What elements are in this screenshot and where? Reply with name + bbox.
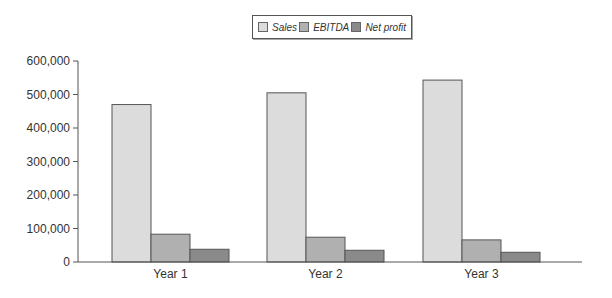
y-axis: 0100,000200,000300,000400,000500,000600,… [27, 54, 78, 269]
bar-net-profit [190, 249, 229, 262]
bar-net-profit [345, 250, 384, 262]
bar-chart: 0100,000200,000300,000400,000500,000600,… [0, 0, 612, 298]
bars [112, 80, 540, 262]
bar-sales [112, 105, 151, 262]
y-tick-label: 100,000 [27, 222, 71, 236]
bar-ebitda [151, 234, 190, 262]
x-category-label: Year 1 [153, 267, 188, 281]
y-tick-label: 200,000 [27, 188, 71, 202]
bar-sales [423, 80, 462, 262]
bar-net-profit [501, 252, 540, 262]
bar-group [112, 105, 229, 262]
y-tick-label: 500,000 [27, 88, 71, 102]
bar-ebitda [306, 237, 345, 262]
y-tick-label: 400,000 [27, 121, 71, 135]
bar-group [267, 93, 384, 262]
x-category-label: Year 2 [308, 267, 343, 281]
x-category-label: Year 3 [464, 267, 499, 281]
bar-group [423, 80, 540, 262]
y-tick-label: 300,000 [27, 155, 71, 169]
y-tick-label: 0 [63, 255, 70, 269]
x-axis: Year 1Year 2Year 3 [78, 262, 582, 281]
bar-sales [267, 93, 306, 262]
bar-ebitda [462, 240, 501, 262]
y-tick-label: 600,000 [27, 54, 71, 68]
